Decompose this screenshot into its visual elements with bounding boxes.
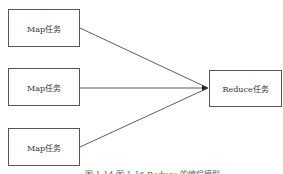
- map-task-label-1: Map任务: [27, 23, 61, 34]
- edge-map3-reduce: [80, 88, 208, 147]
- map-task-node-2: Map任务: [8, 68, 80, 106]
- map-task-label-2: Map任务: [27, 82, 61, 93]
- edge-map1-reduce: [80, 28, 208, 88]
- reduce-task-node: Reduce任务: [209, 70, 282, 107]
- map-task-label-3: Map任务: [27, 142, 61, 153]
- map-task-node-3: Map任务: [8, 128, 80, 166]
- reduce-task-label: Reduce任务: [222, 83, 268, 94]
- map-task-node-1: Map任务: [8, 9, 80, 47]
- figure-caption: 图 1-14 图 1-15 Reduce 的编程模型: [85, 168, 220, 174]
